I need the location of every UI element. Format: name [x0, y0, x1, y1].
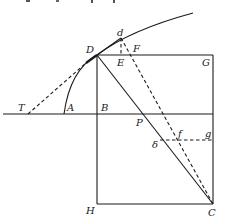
cropped-text-fragment	[26, 0, 115, 3]
label-D: D	[85, 44, 94, 55]
label-T: T	[18, 102, 26, 113]
label-C: C	[208, 207, 216, 218]
label-B: B	[100, 102, 108, 113]
line-DC	[97, 55, 213, 204]
label-d: d	[117, 27, 123, 38]
dashed-TD	[28, 63, 86, 114]
label-F: F	[132, 43, 141, 54]
label-delta: δ	[152, 139, 158, 150]
dashed-dC	[121, 38, 213, 204]
label-G: G	[202, 57, 210, 68]
label-H: H	[85, 205, 95, 216]
label-A: A	[66, 102, 74, 113]
arc-AD	[64, 13, 193, 114]
label-f: f	[177, 128, 184, 139]
label-P: P	[135, 117, 143, 128]
tangent-segment	[86, 55, 97, 63]
geometry-diagram: T A B D d E F G P f g δ H C	[0, 0, 226, 221]
label-g: g	[205, 128, 211, 139]
label-E: E	[116, 57, 125, 68]
